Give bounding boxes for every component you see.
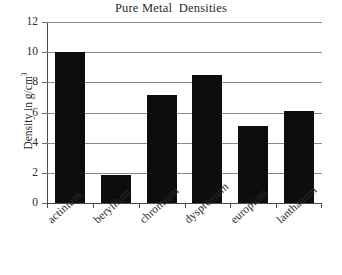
y-axis-tick-label: 0 xyxy=(12,196,38,208)
plot-area xyxy=(47,22,322,203)
gridline xyxy=(47,82,322,83)
gridline xyxy=(47,173,322,174)
x-axis-tick xyxy=(47,203,48,208)
y-axis-tick-label: 2 xyxy=(12,166,38,178)
bar-chart: Pure Metal Densities Density in g/cm3 02… xyxy=(0,0,342,275)
y-axis-tick-label: 8 xyxy=(12,75,38,87)
y-axis-tick-label: 10 xyxy=(12,45,38,57)
x-axis-tick xyxy=(230,203,231,208)
x-axis-tick xyxy=(321,203,322,208)
gridline xyxy=(47,52,322,53)
bottom-caption xyxy=(0,268,342,275)
bar xyxy=(55,52,85,203)
x-axis-tick xyxy=(93,203,94,208)
x-axis-tick xyxy=(139,203,140,208)
y-axis-tick-label: 12 xyxy=(12,15,38,27)
gridline xyxy=(47,113,322,114)
y-axis-tick-label: 6 xyxy=(12,106,38,118)
x-axis-tick xyxy=(185,203,186,208)
chart-title: Pure Metal Densities xyxy=(0,1,342,16)
x-axis-tick-marks xyxy=(47,203,322,209)
x-axis-tick xyxy=(276,203,277,208)
gridline xyxy=(47,22,322,23)
y-axis-tick-label: 4 xyxy=(12,136,38,148)
gridline xyxy=(47,143,322,144)
